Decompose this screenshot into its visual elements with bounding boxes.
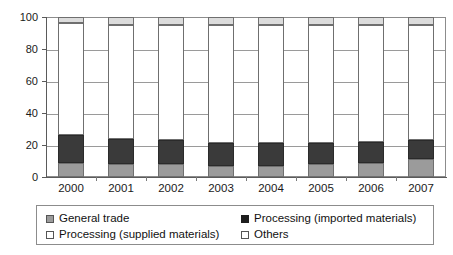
y-tick-label: 100	[8, 12, 38, 23]
segment-general-trade[interactable]	[408, 159, 434, 177]
bar-group[interactable]	[308, 17, 334, 177]
segment-others[interactable]	[258, 17, 284, 25]
chart-legend: General trade Processing (imported mater…	[36, 205, 434, 245]
processing-supplied-swatch	[46, 231, 54, 239]
stacked-bar[interactable]	[158, 17, 184, 177]
segment-others[interactable]	[358, 17, 384, 25]
x-tick-label: 2006	[346, 183, 396, 195]
others-swatch	[241, 231, 249, 239]
stacked-bar[interactable]	[108, 17, 134, 177]
segment-others[interactable]	[208, 17, 234, 25]
bars-layer	[46, 17, 446, 177]
segment-processing-supplied[interactable]	[208, 25, 234, 143]
segment-general-trade[interactable]	[358, 163, 384, 177]
x-tick-mark	[96, 177, 97, 181]
bar-group[interactable]	[258, 17, 284, 177]
processing-imported-swatch	[241, 215, 249, 223]
segment-processing-imported[interactable]	[408, 140, 434, 159]
y-tick-label: 60	[8, 76, 38, 87]
segment-general-trade[interactable]	[208, 166, 234, 177]
stacked-bar[interactable]	[358, 17, 384, 177]
x-tick-label: 2001	[96, 183, 146, 195]
x-tick-mark	[346, 177, 347, 181]
x-tick-label: 2007	[396, 183, 446, 195]
legend-item-others: Others	[241, 229, 289, 241]
bar-group[interactable]	[358, 17, 384, 177]
segment-general-trade[interactable]	[258, 166, 284, 177]
stacked-bar[interactable]	[58, 17, 84, 177]
segment-processing-supplied[interactable]	[258, 25, 284, 143]
stacked-bar[interactable]	[208, 17, 234, 177]
segment-others[interactable]	[58, 17, 84, 23]
segment-processing-supplied[interactable]	[108, 25, 134, 139]
segment-processing-imported[interactable]	[208, 143, 234, 165]
legend-item-processing-imported: Processing (imported materials)	[241, 213, 416, 225]
segment-others[interactable]	[308, 17, 334, 25]
legend-item-general-trade: General trade	[46, 213, 129, 225]
segment-processing-supplied[interactable]	[408, 25, 434, 140]
bar-group[interactable]	[108, 17, 134, 177]
segment-processing-imported[interactable]	[308, 143, 334, 164]
legend-label: Processing (imported materials)	[254, 213, 416, 225]
segment-processing-imported[interactable]	[108, 139, 134, 165]
stacked-bar-chart: 020406080100 200020012002200320042005200…	[0, 0, 453, 255]
x-tick-label: 2000	[46, 183, 96, 195]
segment-processing-imported[interactable]	[258, 143, 284, 165]
legend-label: General trade	[59, 213, 129, 225]
segment-general-trade[interactable]	[58, 163, 84, 177]
x-tick-mark	[246, 177, 247, 181]
x-tick-mark	[296, 177, 297, 181]
x-tick-label: 2002	[146, 183, 196, 195]
segment-others[interactable]	[108, 17, 134, 25]
bar-group[interactable]	[58, 17, 84, 177]
segment-general-trade[interactable]	[158, 164, 184, 177]
bar-group[interactable]	[208, 17, 234, 177]
general-trade-swatch	[46, 215, 54, 223]
segment-others[interactable]	[158, 17, 184, 25]
bar-group[interactable]	[158, 17, 184, 177]
legend-item-processing-supplied: Processing (supplied materials)	[46, 229, 219, 241]
y-tick-label: 80	[8, 44, 38, 55]
y-tick-label: 20	[8, 140, 38, 151]
stacked-bar[interactable]	[308, 17, 334, 177]
segment-processing-supplied[interactable]	[358, 25, 384, 142]
stacked-bar[interactable]	[258, 17, 284, 177]
segment-others[interactable]	[408, 17, 434, 25]
segment-general-trade[interactable]	[308, 164, 334, 177]
bar-group[interactable]	[408, 17, 434, 177]
segment-processing-imported[interactable]	[158, 140, 184, 164]
x-tick-mark	[196, 177, 197, 181]
segment-processing-imported[interactable]	[358, 142, 384, 163]
segment-processing-imported[interactable]	[58, 135, 84, 162]
x-tick-label: 2004	[246, 183, 296, 195]
segment-processing-supplied[interactable]	[158, 25, 184, 140]
x-tick-label: 2005	[296, 183, 346, 195]
stacked-bar[interactable]	[408, 17, 434, 177]
x-tick-mark	[396, 177, 397, 181]
legend-label: Others	[254, 229, 289, 241]
y-tick-label: 40	[8, 108, 38, 119]
x-tick-mark	[146, 177, 147, 181]
segment-processing-supplied[interactable]	[308, 25, 334, 143]
segment-general-trade[interactable]	[108, 164, 134, 177]
segment-processing-supplied[interactable]	[58, 23, 84, 135]
legend-label: Processing (supplied materials)	[59, 229, 219, 241]
y-tick-label: 0	[8, 172, 38, 183]
x-tick-label: 2003	[196, 183, 246, 195]
